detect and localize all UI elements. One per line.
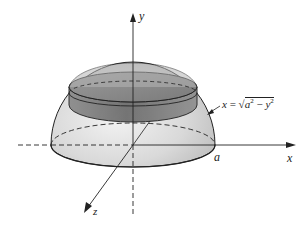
eq-lhs: x (222, 98, 227, 110)
y-axis-label: y (139, 10, 144, 22)
eq-radicand: a2 − y2 (245, 97, 274, 110)
z-axis-label: z (93, 206, 97, 217)
y-axis-arrow-icon (130, 13, 136, 22)
eq-exp-y: 2 (270, 97, 274, 105)
x-axis-arrow-icon (286, 142, 296, 148)
hemisphere-figure: y x z a x = √a2 − y2 (0, 0, 308, 228)
eq-equals: = (230, 98, 236, 110)
figure-graphics (0, 0, 308, 228)
radius-label: a (214, 151, 220, 163)
equation-label: x = √a2 − y2 (222, 98, 274, 110)
eq-minus: − (256, 98, 262, 110)
eq-exp-a: 2 (250, 97, 254, 105)
x-axis-label: x (287, 152, 292, 164)
